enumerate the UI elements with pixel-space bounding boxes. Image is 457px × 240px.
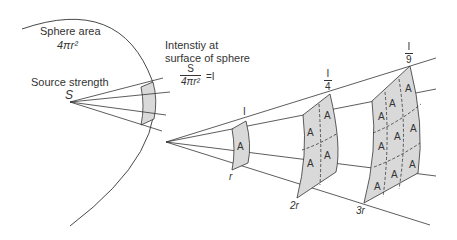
distance-r: r [229, 171, 232, 183]
patch-3r-label-1: A [405, 83, 412, 94]
intensity-3r-num: I [406, 42, 411, 52]
patch-3r: A A A A A A A A A [364, 66, 421, 203]
patch-2r-label-3: A [307, 158, 314, 169]
source-strength-title: Source strength [31, 76, 109, 88]
distance-2r: 2r [290, 200, 299, 212]
patch-3r-label-2: A [389, 98, 396, 109]
intensity-r: I [243, 106, 246, 118]
intensity-2r-den: 4 [324, 82, 332, 92]
patch-2r: A A A A [297, 94, 338, 198]
intensity-3r-den: 9 [405, 55, 413, 65]
distance-3r: 3r [356, 205, 365, 217]
sphere-area-formula: 4πr² [57, 39, 78, 51]
intensity-label-line2: surface of sphere [165, 52, 250, 64]
patch-r-label: A [237, 141, 244, 152]
intensity-formula: S 4πr² [180, 64, 201, 87]
patch-3r-label-9: A [374, 181, 381, 192]
intensity-label-line1: Intenstiy at [165, 39, 218, 51]
patch-2r-label-4: A [324, 150, 331, 161]
patch-3r-label-5: A [394, 131, 401, 142]
patch-3r-label-4: A [410, 123, 417, 134]
intensity-2r-num: I [325, 69, 330, 79]
patch-2r-label-1: A [307, 127, 314, 138]
patch-2r-label-2: A [324, 110, 331, 121]
intensity-equals: =I [206, 71, 215, 83]
patch-3r-label-8: A [391, 169, 398, 180]
patch-3r-label-3: A [378, 111, 385, 122]
patch-3r-label-7: A [409, 159, 416, 170]
source-symbol: S [65, 89, 73, 101]
intensity-3r: I 9 [405, 42, 413, 65]
intensity-denominator: 4πr² [180, 77, 201, 87]
intensity-2r: I 4 [324, 69, 332, 92]
sphere-area-title: Sphere area [40, 25, 101, 37]
patch-3r-label-6: A [378, 141, 385, 152]
intensity-numerator: S [186, 64, 195, 74]
sphere-patch [141, 82, 156, 125]
